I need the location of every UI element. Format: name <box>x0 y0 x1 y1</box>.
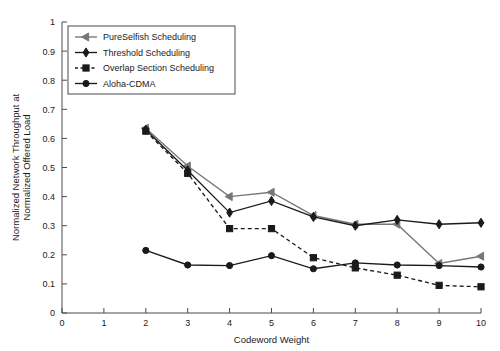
data-point-marker <box>143 247 149 253</box>
x-tick-label: 0 <box>59 318 64 328</box>
y-tick-label: 0.3 <box>42 221 55 231</box>
y-tick-label: 0 <box>50 308 55 318</box>
data-point-marker <box>394 262 400 268</box>
x-tick-label: 8 <box>395 318 400 328</box>
y-tick-label: 0.7 <box>42 105 55 115</box>
data-point-marker <box>227 226 233 232</box>
chart-figure: 00.10.20.30.40.50.60.70.80.9101234567891… <box>0 0 500 351</box>
x-axis-title: Codeword Weight <box>234 334 310 345</box>
data-point-marker <box>478 264 484 270</box>
series-1 <box>141 124 483 267</box>
y-tick-label: 0.5 <box>42 163 55 173</box>
data-point-marker <box>268 226 274 232</box>
x-tick-label: 2 <box>143 318 148 328</box>
x-tick-label: 1 <box>101 318 106 328</box>
data-point-marker <box>310 266 316 272</box>
data-point-marker <box>185 170 191 176</box>
x-tick-label: 5 <box>269 318 274 328</box>
data-point-marker <box>394 272 400 278</box>
x-tick-label: 4 <box>227 318 232 328</box>
data-point-marker <box>268 253 274 259</box>
x-tick-label: 3 <box>185 318 190 328</box>
y-tick-label: 0.9 <box>42 47 55 57</box>
y-axis-title-line2: Normalized Offered Load <box>21 115 32 221</box>
data-point-marker <box>143 128 149 134</box>
y-tick-label: 0.1 <box>42 279 55 289</box>
line-chart-canvas: 00.10.20.30.40.50.60.70.80.9101234567891… <box>0 0 500 351</box>
series-line <box>146 128 481 263</box>
data-point-marker <box>83 80 89 86</box>
series-line <box>146 131 481 287</box>
data-point-marker <box>436 282 442 288</box>
series-line <box>146 130 481 226</box>
legend-label: Threshold Scheduling <box>103 48 190 58</box>
y-tick-label: 0.8 <box>42 76 55 86</box>
data-point-marker <box>436 262 442 268</box>
legend-label: Aloha-CDMA <box>103 79 156 89</box>
data-point-marker <box>478 284 484 290</box>
data-point-marker <box>227 262 233 268</box>
legend-label: Overlap Section Scheduling <box>103 63 214 73</box>
x-tick-label: 7 <box>353 318 358 328</box>
data-point-marker <box>267 188 274 196</box>
y-axis-title-line1: Normalized Network Throughput at <box>10 94 21 242</box>
y-tick-label: 0.2 <box>42 250 55 260</box>
data-point-marker <box>310 255 316 261</box>
data-point-marker <box>436 220 442 229</box>
data-point-marker <box>83 65 89 71</box>
y-tick-label: 0.6 <box>42 134 55 144</box>
x-tick-label: 9 <box>437 318 442 328</box>
data-point-marker <box>269 196 275 205</box>
legend-label: PureSelfish Scheduling <box>103 32 196 42</box>
y-tick-label: 0.4 <box>42 192 55 202</box>
data-point-marker <box>478 218 484 227</box>
y-tick-label: 1 <box>50 17 55 27</box>
data-point-marker <box>185 262 191 268</box>
series-2 <box>143 125 484 230</box>
x-tick-label: 10 <box>476 318 486 328</box>
data-point-marker <box>477 252 484 260</box>
x-tick-label: 6 <box>311 318 316 328</box>
data-point-marker <box>227 208 233 217</box>
data-point-marker <box>352 260 358 266</box>
